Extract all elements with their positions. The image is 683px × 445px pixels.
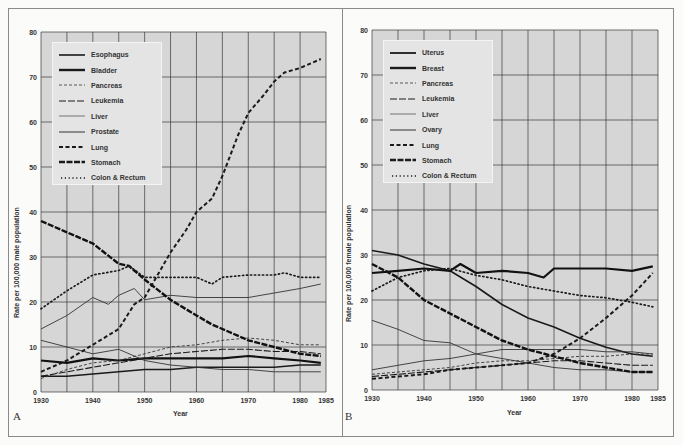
legend-item-lung: Lung (390, 137, 486, 152)
thin-dashed-line-icon (390, 80, 416, 86)
heavy-dashed-line-icon (59, 159, 85, 165)
x-tick-label: 1950 (468, 395, 484, 402)
panel-a-letter: A (13, 410, 21, 422)
legend-item-stomach: Stomach (59, 155, 155, 170)
legend-item-breast: Breast (390, 60, 486, 75)
y-tick-label: 40 (360, 207, 368, 214)
y-tick-label: 30 (360, 252, 368, 259)
solid-line-icon (59, 52, 85, 58)
legend-item-liver: Liver (390, 107, 486, 122)
legend-item-uterus: Uterus (390, 45, 486, 60)
legend-item-pancreas: Pancreas (390, 76, 486, 91)
y-tick-label: 40 (29, 209, 37, 216)
legend-item-bladder: Bladder (59, 62, 155, 77)
legend-item-colon-rectum: Colon & Rectum (390, 168, 486, 183)
thin-line-icon (390, 127, 416, 133)
legend-item-pancreas: Pancreas (59, 78, 155, 93)
thin-line-icon (390, 111, 416, 117)
x-tick-label: 1985 (650, 395, 666, 402)
panel-a-legend: Esophagus Bladder Pancreas Leukemia Live… (52, 42, 162, 185)
y-tick-label: 20 (29, 299, 37, 306)
dotted-line-icon (390, 173, 416, 179)
y-tick-label: 30 (29, 254, 37, 261)
long-dash-line-icon (59, 98, 85, 104)
y-tick-label: 20 (360, 297, 368, 304)
x-tick-label: 1940 (416, 395, 432, 402)
x-tick-label: 1960 (189, 397, 205, 404)
thin-line-icon (59, 113, 85, 119)
legend-item-esophagus: Esophagus (59, 47, 155, 62)
thin-dashed-line-icon (59, 82, 85, 88)
thick-dashed-line-icon (59, 144, 85, 150)
x-tick-label: 1960 (520, 395, 536, 402)
y-tick-label: 70 (360, 72, 368, 79)
thick-line-icon (59, 67, 85, 73)
solid-line-icon (390, 50, 416, 56)
dotted-line-icon (59, 175, 85, 181)
legend-item-leukemia: Leukemia (390, 91, 486, 106)
x-tick-label: 1970 (240, 397, 256, 404)
x-tick-label: 1950 (137, 397, 153, 404)
x-tick-label: 1985 (318, 397, 334, 404)
legend-item-stomach: Stomach (390, 153, 486, 168)
heavy-dashed-line-icon (390, 157, 416, 163)
x-tick-label: 1980 (292, 397, 308, 404)
panel-a-y-axis-title: Rate per 100,000 male population (13, 207, 20, 318)
x-tick-label: 1930 (364, 395, 380, 402)
legend-item-liver: Liver (59, 109, 155, 124)
y-tick-label: 80 (360, 27, 368, 34)
panel-b-legend: Uterus Breast Pancreas Leukemia Liver Ov… (383, 40, 493, 183)
y-tick-label: 50 (29, 164, 37, 171)
y-tick-label: 70 (29, 74, 37, 81)
thin-line-icon (59, 129, 85, 135)
legend-item-lung: Lung (59, 139, 155, 154)
long-dash-line-icon (390, 96, 416, 102)
y-tick-label: 10 (29, 344, 37, 351)
panel-b-y-axis-title: Rate per 100,000 female population (345, 205, 352, 322)
y-tick-label: 0 (364, 387, 368, 394)
thick-line-icon (390, 65, 416, 71)
x-tick-label: 1930 (33, 397, 49, 404)
x-tick-label: 1970 (572, 395, 588, 402)
x-tick-label: 1940 (85, 397, 101, 404)
thick-dashed-line-icon (390, 142, 416, 148)
y-tick-label: 0 (33, 389, 37, 396)
y-tick-label: 60 (360, 117, 368, 124)
x-tick-label: 1980 (624, 395, 640, 402)
panel-b-letter: B (345, 410, 352, 422)
panel-a-x-axis-title: Year (173, 410, 188, 417)
y-tick-label: 80 (29, 29, 37, 36)
panel-b-x-axis-title: Year (507, 409, 522, 416)
legend-item-leukemia: Leukemia (59, 93, 155, 108)
legend-item-ovary: Ovary (390, 122, 486, 137)
y-tick-label: 50 (360, 162, 368, 169)
legend-item-colon-rectum: Colon & Rectum (59, 170, 155, 185)
y-tick-label: 60 (29, 119, 37, 126)
y-tick-label: 10 (360, 342, 368, 349)
legend-item-prostate: Prostate (59, 124, 155, 139)
